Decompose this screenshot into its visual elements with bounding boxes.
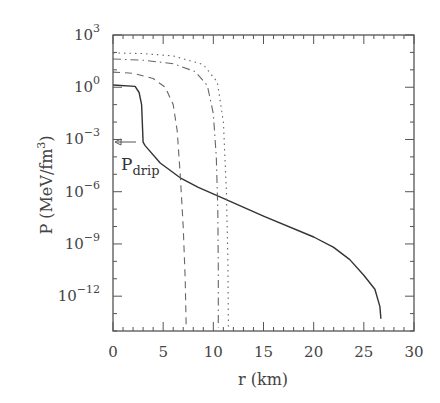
series-dash-dot-line [113,59,218,328]
x-tick-labels: 051015202530 [108,343,423,361]
series-layer [113,53,381,328]
y-tick-label: 10−12 [58,283,100,305]
x-tick-label: 20 [304,343,323,361]
y-tick-label: 103 [74,22,100,44]
y-axis-title-main: P (MeV/fm [37,149,56,235]
y-tick-label: 10−9 [65,231,100,253]
y-axis-title-close: ) [37,135,56,141]
x-axis-title: r (km) [238,370,288,389]
series-dotted-line [113,53,228,328]
p-drip-label: Pdrip [121,154,159,178]
y-tick-labels: 10310010−310−610−910−12 [58,22,100,305]
x-tick-label: 25 [354,343,373,361]
x-tick-label: 15 [254,343,273,361]
pressure-radius-chart: 051015202530 10310010−310−610−910−12 r (… [0,0,440,403]
ticks-layer [113,35,414,331]
series-solid-line [113,85,381,319]
x-tick-label: 5 [158,343,168,361]
series-dashed-line [113,72,186,327]
plot-frame [113,35,414,331]
y-tick-label: 10−3 [65,126,100,148]
y-tick-label: 10−6 [65,179,100,201]
x-tick-label: 30 [404,343,423,361]
y-axis-title: P (MeV/fm3) [35,135,56,234]
x-tick-label: 0 [108,343,118,361]
y-axis-title-sup: 3 [35,142,48,149]
y-tick-label: 100 [74,74,100,96]
x-tick-label: 10 [204,343,223,361]
p-drip-annotation: Pdrip [115,139,159,178]
